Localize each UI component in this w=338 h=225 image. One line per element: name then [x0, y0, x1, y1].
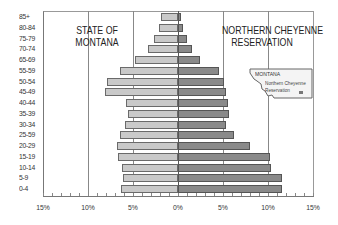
- bar-northern-cheyenne: [178, 153, 270, 161]
- bar-montana: [126, 99, 178, 107]
- x-tick-label: 5%: [128, 203, 138, 212]
- montana-map-inset: MONTANA Northern Cheyenne Reservation: [248, 67, 314, 100]
- x-tick-label: 10%: [81, 203, 95, 212]
- bar-montana: [107, 78, 178, 86]
- y-category-label: 5-9: [19, 173, 28, 182]
- minor-tick: [205, 193, 206, 196]
- minor-tick: [295, 193, 296, 196]
- x-axis: [43, 196, 314, 197]
- x-tick-label: 5%: [218, 203, 228, 212]
- right-title-line-1: NORTHERN CHEYENNE: [222, 24, 302, 36]
- bar-northern-cheyenne: [178, 185, 282, 193]
- minor-tick: [187, 193, 188, 196]
- bar-northern-cheyenne: [178, 35, 187, 43]
- bar-montana: [123, 174, 178, 182]
- minor-tick: [97, 193, 98, 196]
- minor-tick: [223, 193, 224, 196]
- y-category-label: 75-79: [19, 34, 35, 43]
- bar-montana: [121, 185, 178, 193]
- y-category-label: 85+: [19, 12, 30, 21]
- y-category-label: 70-74: [19, 44, 35, 53]
- minor-tick: [232, 193, 233, 196]
- inset-reservation-label: Northern Cheyenne Reservation: [265, 80, 306, 94]
- bar-northern-cheyenne: [178, 24, 183, 32]
- bar-montana: [120, 131, 178, 139]
- y-category-label: 10-14: [19, 163, 35, 172]
- y-category-label: 45-49: [19, 87, 35, 96]
- bar-montana: [105, 88, 178, 96]
- minor-tick: [61, 193, 62, 196]
- inset-reservation-line-1: Northern Cheyenne: [265, 80, 306, 87]
- bar-northern-cheyenne: [178, 121, 226, 129]
- minor-tick: [277, 193, 278, 196]
- minor-tick: [79, 193, 80, 196]
- minor-tick: [268, 193, 269, 196]
- y-category-label: 25-59: [19, 130, 35, 139]
- minor-tick: [196, 193, 197, 196]
- minor-tick: [142, 193, 143, 196]
- bar-northern-cheyenne: [178, 88, 226, 96]
- minor-tick: [88, 193, 89, 196]
- bar-montana: [117, 142, 178, 150]
- bar-montana: [159, 24, 178, 32]
- inset-reservation-line-2: Reservation: [265, 87, 306, 94]
- minor-tick: [151, 193, 152, 196]
- bar-montana: [118, 153, 178, 161]
- minor-tick: [286, 193, 287, 196]
- right-title-line-2: RESERVATION: [222, 36, 302, 48]
- minor-tick: [106, 193, 107, 196]
- bar-northern-cheyenne: [178, 110, 229, 118]
- x-tick-label: 10%: [261, 203, 275, 212]
- minor-tick: [133, 193, 134, 196]
- x-tick-label: 15%: [306, 203, 320, 212]
- bar-northern-cheyenne: [178, 45, 192, 53]
- bar-northern-cheyenne: [178, 142, 250, 150]
- minor-tick: [259, 193, 260, 196]
- x-tick-label: 15%: [36, 203, 50, 212]
- bar-montana: [154, 35, 178, 43]
- y-category-label: 40-44: [19, 98, 35, 107]
- bar-montana: [122, 164, 178, 172]
- minor-tick: [250, 193, 251, 196]
- bar-northern-cheyenne: [178, 13, 181, 21]
- minor-tick: [169, 193, 170, 196]
- bar-northern-cheyenne: [178, 67, 219, 75]
- y-category-label: 20-29: [19, 141, 35, 150]
- bar-northern-cheyenne: [178, 131, 234, 139]
- left-title: STATE OF MONTANA: [73, 24, 121, 48]
- y-category-label: 55-59: [19, 66, 35, 75]
- minor-tick: [313, 193, 314, 196]
- population-pyramid-chart: 15%10%5%0%5%10%15% 85+80-8475-7970-7465-…: [0, 0, 338, 225]
- bar-montana: [128, 110, 178, 118]
- minor-tick: [43, 193, 44, 196]
- minor-tick: [304, 193, 305, 196]
- minor-tick: [52, 193, 53, 196]
- minor-tick: [178, 193, 179, 196]
- bar-montana: [120, 67, 178, 75]
- bar-montana: [135, 56, 178, 64]
- x-tick-label: 0%: [173, 203, 183, 212]
- bar-northern-cheyenne: [178, 99, 228, 107]
- minor-tick: [115, 193, 116, 196]
- bar-montana: [161, 13, 178, 21]
- minor-tick: [160, 193, 161, 196]
- bar-northern-cheyenne: [178, 56, 200, 64]
- bar-northern-cheyenne: [178, 78, 224, 86]
- y-category-label: 65-69: [19, 55, 35, 64]
- bar-northern-cheyenne: [178, 174, 282, 182]
- left-title-line-2: MONTANA: [73, 36, 121, 48]
- y-category-label: 30-34: [19, 120, 35, 129]
- y-category-label: 80-84: [19, 23, 35, 32]
- y-category-label: 35-39: [19, 109, 35, 118]
- bar-northern-cheyenne: [178, 164, 271, 172]
- minor-tick: [241, 193, 242, 196]
- minor-tick: [214, 193, 215, 196]
- minor-tick: [70, 193, 71, 196]
- minor-tick: [124, 193, 125, 196]
- y-category-label: 50-54: [19, 77, 35, 86]
- bar-montana: [148, 45, 178, 53]
- inset-state-label: MONTANA: [255, 71, 280, 77]
- left-title-line-1: STATE OF: [73, 24, 121, 36]
- y-category-label: 0-4: [19, 184, 28, 193]
- right-title: NORTHERN CHEYENNE RESERVATION: [222, 24, 302, 48]
